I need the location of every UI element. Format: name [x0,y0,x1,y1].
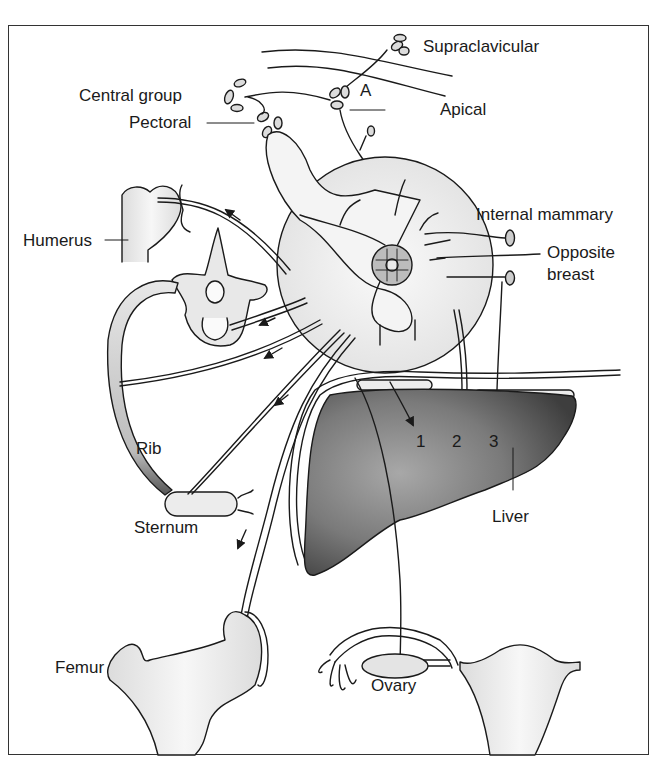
humerus [105,185,190,262]
uterus [460,645,580,755]
femur-arrow [238,530,246,548]
label-liver: Liver [492,508,529,525]
label-sternum: Sternum [134,519,198,536]
clavicle-lines [262,50,452,96]
label-rib: Rib [136,440,162,457]
central-group-nodes [223,78,247,112]
label-central-group: Central group [79,87,182,104]
rib [108,281,178,495]
label-supraclavicular: Supraclavicular [423,38,539,55]
internal-mammary-node [506,230,515,246]
costal-cartilage-left [357,380,432,390]
liver [304,389,576,575]
interpectoral-node [368,126,375,136]
label-femur: Femur [55,659,104,676]
label-humerus: Humerus [23,232,92,249]
label-route-3: 3 [489,433,498,450]
label-opposite: Opposite [547,244,615,261]
label-internal-mammary: Internal mammary [476,206,613,223]
vertebra [172,228,267,346]
label-breast: breast [547,266,594,283]
label-apical: Apical [440,101,486,118]
fimbriae [319,660,356,690]
apical-nodes [328,86,349,109]
femur [108,612,268,755]
label-a-marker: A [360,82,371,99]
sternum [165,490,253,516]
route-3-node [506,271,515,285]
ovary [362,654,428,678]
label-route-1: 1 [416,433,425,450]
label-route-2: 2 [452,433,461,450]
supraclavicular-nodes [390,35,409,56]
label-ovary: Ovary [371,677,416,694]
label-pectoral: Pectoral [129,114,191,131]
central-to-apical-vessel [245,92,330,100]
nipple-areola [372,245,412,285]
